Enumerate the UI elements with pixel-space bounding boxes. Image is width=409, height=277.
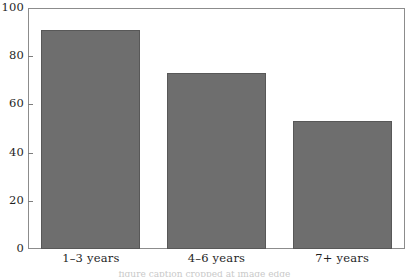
bar-chart-figure: 020406080100 1–3 years4–6 years7+ years … (0, 0, 409, 277)
bar (41, 30, 140, 249)
x-tick-label: 1–3 years (28, 252, 154, 265)
figure-caption: figure caption cropped at image edge (0, 271, 409, 277)
y-tick-label: 60 (9, 98, 24, 110)
figure-caption-clip: figure caption cropped at image edge (0, 271, 409, 277)
x-tick-label: 7+ years (279, 252, 405, 265)
y-axis: 020406080100 (0, 0, 24, 277)
y-tick-label: 100 (1, 2, 24, 14)
bar (293, 121, 392, 249)
y-tick-label: 80 (9, 50, 24, 62)
bar (167, 73, 266, 249)
y-tick-label: 0 (16, 243, 24, 255)
y-tick-label: 20 (9, 195, 24, 207)
y-tick-label: 40 (9, 147, 24, 159)
bars-layer (28, 8, 405, 249)
x-axis-labels: 1–3 years4–6 years7+ years (28, 252, 405, 268)
x-tick-label: 4–6 years (154, 252, 280, 265)
